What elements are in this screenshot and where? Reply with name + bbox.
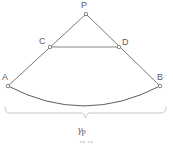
figure-container: P C D A B γP •• ••	[0, 0, 173, 144]
vertex-markers-group	[6, 12, 161, 87]
vertex-label-a: A	[2, 73, 8, 82]
vertex-label-p: P	[81, 1, 87, 10]
geometry-diagram-canvas	[0, 0, 173, 144]
arc-a-b	[8, 86, 160, 106]
vertex-marker-p	[84, 12, 87, 15]
vertex-label-b: B	[157, 73, 163, 82]
dimension-brace	[5, 107, 166, 118]
cropped-caption-remnant: •• ••	[0, 137, 173, 144]
vertex-marker-c	[48, 45, 51, 48]
segment-p-b	[86, 14, 160, 86]
vertex-label-c: C	[39, 37, 46, 46]
segment-a-p	[8, 14, 86, 86]
brace-label-gamma-p: γP	[78, 119, 86, 138]
triangle-sides-group	[8, 14, 160, 86]
vertex-marker-b	[158, 84, 161, 87]
vertex-marker-d	[117, 45, 120, 48]
vertex-label-d: D	[122, 38, 129, 47]
vertex-marker-a	[6, 84, 9, 87]
